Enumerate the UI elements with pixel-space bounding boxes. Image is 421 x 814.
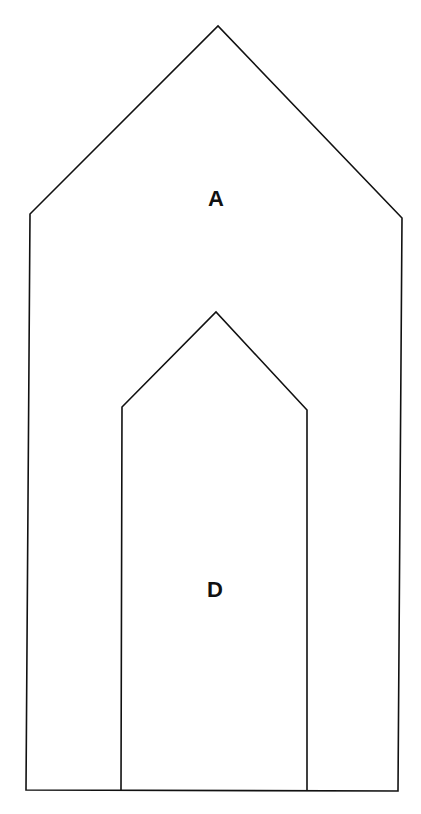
label-d: D xyxy=(207,577,223,603)
outer-shape-a xyxy=(26,26,402,791)
inner-shape-d xyxy=(121,312,307,791)
nested-pentagons-diagram xyxy=(0,0,421,814)
label-a: A xyxy=(208,186,224,212)
